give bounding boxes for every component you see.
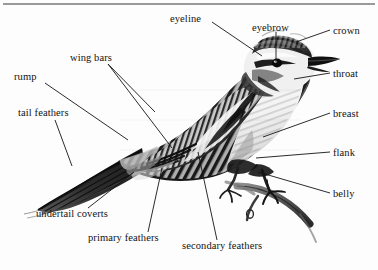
label-belly: belly [333,188,355,200]
eye [272,59,282,68]
label-undertail-coverts: undertail coverts [36,208,108,220]
label-throat: throat [333,68,358,80]
label-secondary-feathers: secondary feathers [182,240,262,252]
label-wing-bars: wing bars [70,52,112,64]
head [241,31,340,97]
label-crown: crown [333,25,360,37]
label-flank: flank [333,147,355,159]
label-eyeline: eyeline [170,13,201,25]
label-primary-feathers: primary feathers [88,232,159,244]
label-tail-feathers: tail feathers [18,107,69,119]
bird-illustration [0,0,378,270]
label-rump: rump [14,71,37,83]
label-breast: breast [333,108,359,120]
label-eyebrow: eyebrow [252,22,289,34]
bird-anatomy-diagram: eyeline eyebrow crown throat breast flan… [0,0,378,270]
